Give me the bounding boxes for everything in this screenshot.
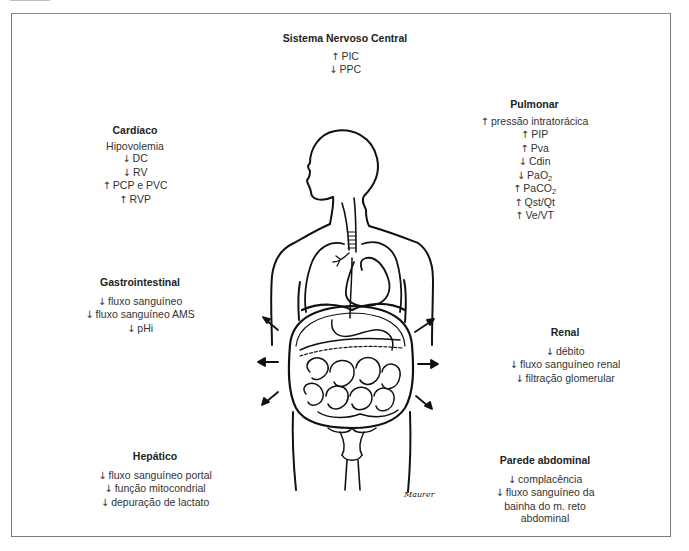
panel-title: Pulmonar [462,98,607,111]
arrow-down-icon: ↓ [98,296,106,307]
arrow-down-icon: ↓ [517,170,525,181]
panel-item-text: Ve/VT [525,209,554,221]
panel-item: ↓débito [485,345,645,359]
panel-item: ↑RVP [55,193,215,207]
panel-item-text: função mitocondrial [115,482,206,494]
panel-cns: Sistema Nervoso Central ↑PIC↓PPC [240,32,450,77]
left-lung [305,243,344,312]
panel-item-text: PIC [341,50,359,62]
panel-item-text: fluxo sanguíneo da bainha do m. reto abd… [504,486,594,524]
arrow-down-icon: ↓ [495,487,503,498]
arrow-up-icon: ↑ [514,197,522,208]
panel-title: Hepático [90,450,220,463]
panel-item-text: PCP e PVC [113,179,168,191]
panel-item: ↑PaCO2 [462,182,607,196]
panel-items: ↓fluxo sanguíneo↓fluxo sanguíneo AMS↓pHi [55,295,225,336]
panel-item: ↓fluxo sanguíneo da bainha do m. reto ab… [490,486,600,525]
panel-item: ↑Ve/VT [462,209,607,223]
arrow-up-icon: ↑ [520,143,528,154]
panel-gastrointestinal: Gastrointestinal ↓fluxo sanguíneo↓fluxo … [55,276,225,335]
panel-item-text: depuração de lactato [111,496,209,508]
panel-title: Renal [485,326,645,339]
panel-items: ↓débito↓fluxo sanguíneo renal↓filtração … [485,345,645,386]
stomach [332,320,393,350]
panel-item: Hipovolemia [55,140,215,153]
arrow-down-icon: ↓ [510,359,518,370]
panel-item: ↓filtração glomerular [485,372,645,386]
panel-pulmonary: Pulmonar ↑pressão intratorácica↑PIP↑Pva↓… [462,98,607,223]
panel-item: ↓fluxo sanguíneo AMS [55,308,225,322]
panel-item-text: fluxo sanguíneo renal [520,358,620,370]
arrow-down-icon: ↓ [123,167,131,178]
arrow-down-icon: ↓ [85,309,93,320]
torso-illustration [230,110,470,510]
panel-item: ↓PaO2 [462,169,607,183]
panel-item-text: Cdin [529,155,551,167]
panel-item: ↓fluxo sanguíneo portal [90,469,220,483]
panel-abdominal-wall: Parede abdominal ↓complacência↓fluxo san… [490,454,600,525]
arrow-down-icon: ↓ [101,497,109,508]
left-shoulder-outline [271,197,333,345]
panel-item-text: PaO [527,169,548,181]
arrow-down-icon: ↓ [329,64,337,75]
panel-item-text: RVP [129,193,150,205]
panel-renal: Renal ↓débito↓fluxo sanguíneo renal↓filt… [485,326,645,385]
panel-item: ↓PPC [240,63,450,77]
arrow-up-icon: ↑ [119,194,127,205]
pelvis [328,428,376,433]
panel-item-text: RV [133,166,147,178]
panel-item: ↓pHi [55,322,225,336]
arrow-down-icon: ↓ [508,474,516,485]
panel-item: ↑PIP [462,128,607,142]
panel-item: ↑PIC [240,50,450,64]
panel-item-text: PIP [531,128,548,140]
panel-item: ↓complacência [490,473,600,487]
right-hip-outline [408,412,410,492]
panel-items: ↑PIC↓PPC [240,50,450,77]
panel-item: ↓função mitocondrial [90,482,220,496]
panel-item-text: débito [556,345,585,357]
panel-item-text: PaCO [523,182,552,194]
panel-item: ↓Cdin [462,155,607,169]
panel-item: ↓fluxo sanguíneo renal [485,358,645,372]
panel-title: Sistema Nervoso Central [240,32,450,45]
panel-item: ↑PCP e PVC [55,179,215,193]
right-arm-inner [404,280,406,322]
panel-item: ↑pressão intratorácica [462,115,607,129]
arrow-down-icon: ↓ [122,153,130,164]
arrow-down-icon: ↓ [98,470,106,481]
arrow-down-icon: ↓ [104,483,112,494]
small-intestine [304,358,400,418]
panel-item-text: Pva [531,142,549,154]
arrow-up-icon: ↑ [481,116,489,127]
panel-item-text: pressão intratorácica [491,115,588,127]
panel-items: Hipovolemia↓DC↓RV↑PCP e PVC↑RVP [55,140,215,207]
transverse-colon [300,338,400,350]
panel-items: ↓complacência↓fluxo sanguíneo da bainha … [490,473,600,525]
panel-item-text: fluxo sanguíneo AMS [96,308,195,320]
panel-item-text: DC [133,152,148,164]
arrow-up-icon: ↑ [513,183,521,194]
panel-title: Gastrointestinal [55,276,225,289]
arrow-down-icon: ↓ [515,373,523,384]
panel-items: ↑pressão intratorácica↑PIP↑Pva↓Cdin↓PaO2… [462,115,607,223]
top-rule [10,0,50,1]
arrow-up-icon: ↑ [102,180,110,191]
panel-items: ↓fluxo sanguíneo portal↓função mitocondr… [90,469,220,510]
panel-item-text: Hipovolemia [106,140,164,152]
panel-item-text: pHi [137,322,153,334]
panel-item: ↓fluxo sanguíneo [55,295,225,309]
panel-item-text: fluxo sanguíneo [108,295,182,307]
panel-item: ↓RV [55,166,215,180]
panel-item-text: PPC [339,63,361,75]
panel-item: ↓DC [55,152,215,166]
arrow-down-icon: ↓ [546,346,554,357]
panel-title: Cardíaco [55,124,215,137]
panel-item-text: filtração glomerular [526,372,615,384]
panel-hepatic: Hepático ↓fluxo sanguíneo portal↓função … [90,450,220,509]
arrow-up-icon: ↑ [521,129,529,140]
panel-item-text: fluxo sanguíneo portal [109,469,212,481]
panel-title: Parede abdominal [470,454,620,467]
left-hip-outline [293,412,296,490]
arrow-down-icon: ↓ [519,156,527,167]
